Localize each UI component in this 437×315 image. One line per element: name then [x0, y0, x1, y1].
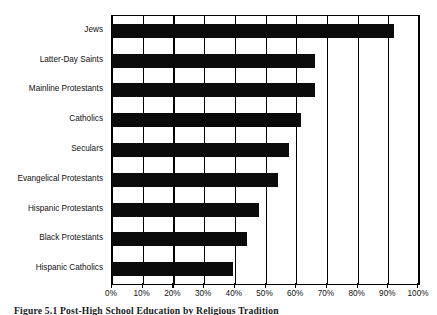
y-axis-label: Latter-Day Saints: [40, 53, 103, 67]
x-axis-tick-label: 20%: [164, 289, 180, 299]
bar: [112, 262, 233, 276]
x-axis-tick: [265, 283, 266, 288]
x-axis-tick: [111, 283, 112, 288]
bar: [112, 83, 315, 97]
y-axis-label: Evangelical Protestants: [17, 172, 103, 186]
figure-caption: Figure 5.1 Post-High School Education by…: [14, 305, 437, 315]
bar: [112, 24, 394, 38]
y-axis-label: Seculars: [71, 142, 103, 156]
bar: [112, 143, 289, 157]
y-axis-label: Hispanic Protestants: [28, 202, 103, 216]
x-axis-tick: [203, 283, 204, 288]
bar: [112, 232, 247, 246]
y-axis-label: Black Protestants: [39, 231, 103, 245]
y-axis-label: Jews: [84, 23, 103, 37]
y-axis-label: Catholics: [69, 112, 103, 126]
x-axis-tick-label: 90%: [379, 289, 395, 299]
x-axis-tick: [357, 283, 358, 288]
bar: [112, 173, 278, 187]
bar: [112, 54, 315, 68]
bar: [112, 113, 301, 127]
x-axis-tick: [326, 283, 327, 288]
x-axis-tick-label: 50%: [256, 289, 272, 299]
x-axis-tick-label: 70%: [318, 289, 334, 299]
figure-bar-chart: JewsLatter-Day SaintsMainline Protestant…: [0, 0, 437, 315]
x-axis-tick-label: 10%: [133, 289, 149, 299]
x-axis-tick: [417, 283, 418, 288]
x-axis-tick: [142, 283, 143, 288]
y-axis-category-labels: JewsLatter-Day SaintsMainline Protestant…: [0, 15, 107, 283]
x-axis-tick-label: 40%: [226, 289, 242, 299]
y-axis-label: Mainline Protestants: [29, 82, 103, 96]
bar: [112, 203, 259, 217]
plot-area: [111, 15, 420, 285]
x-axis-tick-label: 80%: [348, 289, 364, 299]
bar-series: [112, 16, 419, 284]
x-axis-tick: [234, 283, 235, 288]
x-axis-tick: [387, 283, 388, 288]
y-axis-label: Hispanic Catholics: [36, 261, 103, 275]
x-axis-tick-label: 100%: [408, 289, 429, 299]
x-axis-tick-label: 0%: [105, 289, 117, 299]
x-axis-tick: [295, 283, 296, 288]
x-axis-tick: [172, 283, 173, 288]
x-axis-tick-label: 30%: [195, 289, 211, 299]
x-axis-tick-label: 60%: [287, 289, 303, 299]
